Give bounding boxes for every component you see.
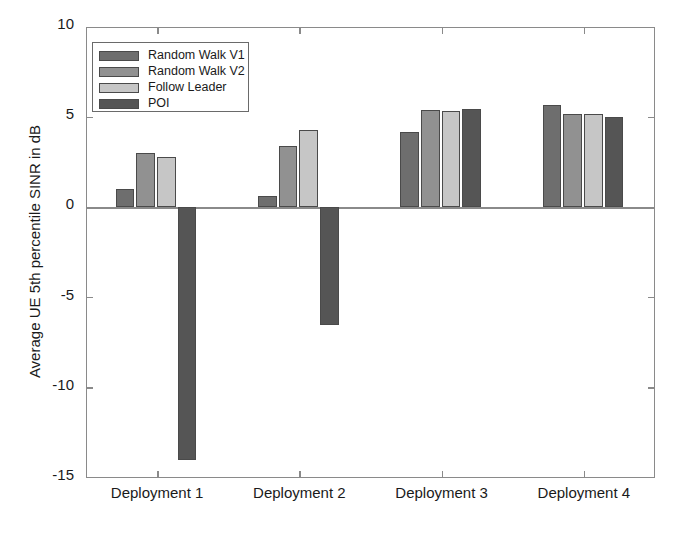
legend-label: POI [148, 97, 170, 110]
legend-item: Random Walk V2 [99, 64, 242, 79]
y-axis-tick-mark-right [648, 117, 655, 118]
legend-swatch [99, 51, 139, 61]
x-axis-tick-mark [442, 471, 443, 478]
bar [442, 111, 461, 208]
bar [299, 130, 318, 208]
bar [605, 117, 624, 207]
bar [421, 110, 440, 207]
x-axis-tick-label: Deployment 1 [111, 484, 204, 501]
legend-swatch [99, 67, 139, 77]
bar [563, 114, 582, 208]
y-axis-tick-label: 0 [66, 196, 74, 211]
legend-swatch [99, 83, 139, 93]
bar [584, 114, 603, 208]
x-axis-tick-mark [157, 471, 158, 478]
bar [157, 157, 176, 208]
bar [279, 146, 298, 207]
y-axis-tick-mark [86, 297, 93, 298]
x-axis-tick-mark [584, 471, 585, 478]
legend-item: Follow Leader [99, 80, 242, 95]
legend-item: POI [99, 96, 242, 111]
bar [400, 132, 419, 208]
x-axis-tick-mark [299, 471, 300, 478]
y-axis-title: Average UE 5th percentile SINR in dB [26, 22, 43, 482]
x-axis-tick-label: Deployment 4 [538, 484, 631, 501]
y-axis-tick-label: 10 [57, 16, 74, 31]
bar [320, 207, 339, 324]
bar [462, 109, 481, 207]
bar [178, 207, 197, 460]
bar [136, 153, 155, 207]
x-axis-tick-label: Deployment 2 [253, 484, 346, 501]
y-axis-tick-label: -15 [52, 467, 74, 482]
chart-figure: Average UE 5th percentile SINR in dB 105… [0, 0, 687, 545]
y-axis-tick-mark-right [648, 297, 655, 298]
legend-swatch [99, 99, 139, 109]
bar [543, 105, 562, 208]
x-axis-tick-mark-top [584, 27, 585, 34]
bar [258, 196, 277, 208]
x-axis-tick-mark-top [299, 27, 300, 34]
y-axis-tick-mark [86, 387, 93, 388]
zero-baseline [86, 207, 655, 208]
chart-legend: Random Walk V1Random Walk V2Follow Leade… [92, 42, 249, 112]
y-axis-tick-mark [86, 117, 93, 118]
bar [116, 189, 135, 207]
x-axis-tick-mark-top [157, 27, 158, 34]
x-axis-tick-label: Deployment 3 [395, 484, 488, 501]
y-axis-tick-label: -5 [61, 287, 74, 302]
x-axis-tick-mark-top [442, 27, 443, 34]
legend-label: Follow Leader [148, 81, 227, 94]
legend-label: Random Walk V1 [148, 49, 245, 62]
y-axis-tick-mark-right [648, 387, 655, 388]
y-axis-tick-label: 5 [66, 106, 74, 121]
legend-label: Random Walk V2 [148, 65, 245, 78]
legend-item: Random Walk V1 [99, 48, 242, 63]
y-axis-tick-label: -10 [52, 377, 74, 392]
